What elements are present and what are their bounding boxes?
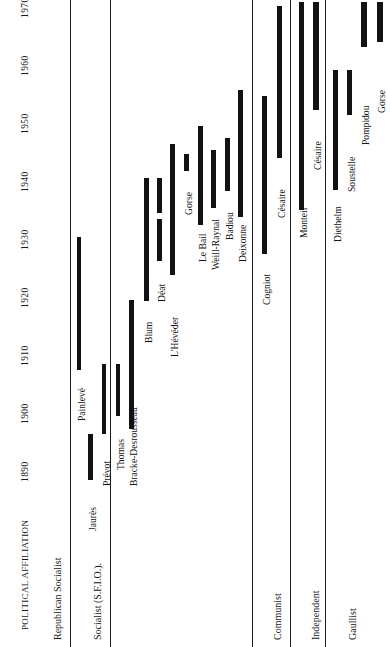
group-separator-gaullist [325, 0, 326, 647]
person-label-gorse-gaullist: Gorse [376, 90, 387, 113]
person-label-prevot: Prévot [101, 461, 112, 486]
timeline-bar-gorse-socialist [184, 154, 189, 171]
timeline-bar-cesaire-communist [277, 6, 282, 158]
timeline-chart: 1970 1960 1950 1940 1930 1920 1910 1900 … [0, 0, 390, 647]
person-label-le-bail: Le Bail [197, 233, 208, 262]
timeline-bar-badiou [225, 138, 230, 191]
group-label-gaullist: Gaullist [347, 608, 358, 640]
axis-title: POLITICAL AFFILIATION [20, 520, 30, 630]
timeline-bar-jaures [88, 434, 93, 480]
group-separator-socialist [110, 0, 111, 647]
year-tick-1970: 1970 [20, 0, 30, 18]
group-separator-communist [252, 0, 253, 647]
person-label-monteil: Monteil [298, 208, 309, 238]
timeline-bar-cesaire-independent [313, 2, 319, 110]
person-label-gorse-socialist: Gorse [183, 192, 194, 215]
person-label-pompidou: Pompidou [360, 106, 371, 145]
timeline-bar-diethelm [333, 70, 338, 190]
group-separator-republican-socialist [70, 0, 71, 647]
group-separator-independent [290, 0, 291, 647]
year-tick-1920: 1920 [20, 287, 30, 308]
timeline-bar-prevot [102, 364, 106, 434]
year-tick-1910: 1910 [20, 345, 30, 366]
person-label-thomas: Thomas [115, 439, 126, 470]
year-tick-1930: 1930 [20, 229, 30, 250]
person-label-soustelle: Soustelle [346, 157, 357, 192]
timeline-bar-deixonne [238, 90, 243, 217]
person-label-bracke-desrousseau: Bracke-Desrousseau [128, 407, 139, 486]
year-tick-1900: 1900 [20, 403, 30, 424]
person-label-lheveder: L'Hévéder [169, 317, 180, 357]
group-label-communist: Communist [272, 593, 283, 640]
timeline-bar-le-bail [198, 126, 203, 225]
timeline-bar-soustelle [347, 70, 352, 115]
timeline-bar-deat-seg1 [157, 178, 162, 213]
timeline-bar-thomas [116, 364, 120, 416]
person-label-blum: Blum [143, 322, 154, 343]
group-label-independent: Independent [310, 591, 321, 640]
person-label-deixonne: Deixonne [237, 225, 248, 262]
timeline-bar-deat-seg2 [157, 219, 162, 261]
person-label-diethelm: Diethelm [332, 206, 343, 242]
person-label-cogniot: Cogniot [261, 274, 272, 305]
year-tick-1950: 1950 [20, 113, 30, 134]
year-tick-1940: 1940 [20, 171, 30, 192]
person-label-jaures: Jaurès [87, 507, 98, 531]
person-label-cesaire-communist: Césaire [276, 189, 287, 218]
year-tick-1890: 1890 [20, 461, 30, 482]
person-label-cesaire-independent: Césaire [312, 141, 323, 170]
person-label-painleve: Painlevé [76, 388, 87, 421]
timeline-bar-lheveder [170, 144, 175, 275]
timeline-bar-pompidou [361, 2, 367, 47]
year-tick-1960: 1960 [20, 55, 30, 76]
timeline-bar-blum [144, 178, 149, 301]
timeline-bar-painleve [77, 237, 81, 370]
group-label-republican-socialist: Republican Socialist [52, 558, 63, 641]
person-label-badiou: Badiou [224, 212, 235, 240]
timeline-bar-weill-raynal [211, 150, 216, 208]
group-label-socialist: Socialist (S.F.I.O.). [92, 563, 103, 640]
person-label-deat: Déat [156, 284, 167, 302]
timeline-bar-monteil [299, 2, 304, 210]
timeline-bar-cogniot [262, 96, 267, 254]
timeline-bar-gorse-gaullist [377, 2, 383, 42]
person-label-weill-raynal: Weill-Raynal [210, 219, 221, 270]
